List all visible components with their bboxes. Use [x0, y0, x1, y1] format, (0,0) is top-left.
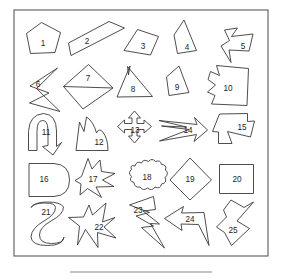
- shape-14-double-barb-arrow: 14: [159, 118, 208, 142]
- shape-label-16: 16: [39, 175, 49, 184]
- shape-13-four-way-move-arrow: 13: [118, 111, 152, 143]
- shape-label-14: 14: [183, 126, 193, 135]
- shape-label-15: 15: [237, 123, 247, 132]
- shape-2-slanted-thin-quadrilateral: 2: [69, 22, 125, 56]
- shape-16-d-shape-rounded-right: 16: [29, 164, 70, 197]
- shape-outline-1: [27, 23, 61, 54]
- shape-3-irregular-quadrilateral: 3: [124, 30, 159, 56]
- shape-outline-2: [69, 22, 125, 56]
- shape-label-20: 20: [232, 175, 242, 184]
- shape-15-concave-arrow-polygon: 15: [213, 114, 255, 144]
- shape-21-hourglass-goblet: 21: [31, 202, 64, 246]
- shape-24-left-pointing-arrow: 24: [165, 207, 210, 246]
- shape-label-13: 13: [130, 126, 140, 135]
- shape-18-cloud-scalloped-blob: 18: [130, 160, 168, 190]
- shape-outline-23: [130, 197, 165, 249]
- shape-label-9: 9: [175, 83, 180, 92]
- shape-label-5: 5: [241, 42, 246, 51]
- shape-outline-6: [30, 68, 61, 112]
- shape-23-lightning-bolt: 23: [130, 197, 165, 249]
- shape-label-18: 18: [142, 173, 152, 182]
- figure-canvas: 1234567891011121314151617181920212223242…: [0, 0, 282, 279]
- shape-label-10: 10: [223, 84, 233, 93]
- shape-7-kite-with-chord: 7: [64, 65, 114, 110]
- shape-22-star-arrow-composite: 22: [69, 203, 117, 248]
- shape-outline-22: [69, 203, 117, 248]
- shape-1-pentagon: 1: [27, 23, 61, 54]
- shape-label-3: 3: [141, 42, 146, 51]
- shape-label-21: 21: [41, 208, 51, 217]
- shape-4-concave-curved-triangle: 4: [174, 20, 197, 54]
- shape-label-17: 17: [88, 175, 98, 184]
- shape-group: 1234567891011121314151617181920212223242…: [27, 20, 255, 248]
- shape-label-4: 4: [185, 43, 190, 52]
- shape-label-25: 25: [228, 226, 238, 235]
- shape-10-wavy-blob-polygon: 10: [208, 66, 249, 106]
- shape-outline-24: [165, 207, 210, 246]
- shape-12-mountain-peak-shape: 12: [76, 117, 108, 151]
- shape-11-curved-hook-arrow: 11: [29, 114, 62, 156]
- shape-label-22: 22: [94, 223, 104, 232]
- shape-label-6: 6: [36, 80, 41, 89]
- shape-outline-16: [29, 164, 70, 197]
- shape-20-square: 20: [220, 165, 254, 194]
- shape-label-19: 19: [185, 175, 195, 184]
- shape-outline-25: [217, 200, 254, 246]
- shape-label-11: 11: [42, 128, 51, 137]
- shape-17-burst-star: 17: [75, 159, 115, 198]
- shape-25-zigzag-z-polygon: 25: [217, 200, 254, 246]
- shape-outline-15: [213, 114, 255, 144]
- shape-label-1: 1: [41, 39, 46, 48]
- shape-label-23: 23: [133, 206, 143, 215]
- shape-outline-5: [221, 28, 253, 63]
- shapes-diagram: 1234567891011121314151617181920212223242…: [0, 0, 282, 279]
- shape-label-24: 24: [185, 215, 195, 224]
- shape-19-diamond: 19: [170, 158, 212, 200]
- shape-label-7: 7: [86, 74, 91, 83]
- shape-outline-7: [64, 65, 114, 110]
- shape-label-12: 12: [94, 138, 104, 147]
- shape-5-concave-arrow-star: 5: [221, 28, 253, 63]
- shape-9-curved-quadrilateral: 9: [167, 66, 190, 96]
- shape-label-8: 8: [131, 85, 136, 94]
- shape-label-2: 2: [85, 37, 90, 46]
- shape-6-self-intersecting-zigzag: 6: [30, 68, 61, 112]
- shape-8-obtuse-triangle-with-notch: 8: [117, 66, 153, 97]
